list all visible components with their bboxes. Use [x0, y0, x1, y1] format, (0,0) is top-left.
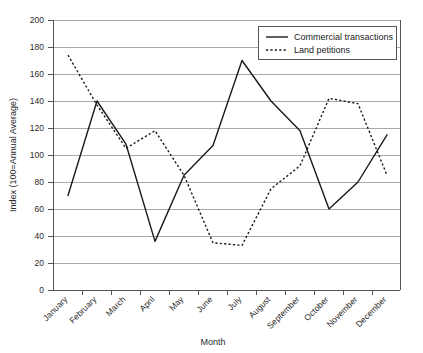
line-chart: 200 180 160 140 120 100 80 60 40 20 0 [0, 0, 423, 353]
ytick-label-60: 60 [35, 204, 45, 214]
x-axis-title: Month [200, 337, 225, 347]
x-tick-labels: January February March April May June Ju… [41, 294, 389, 331]
y-tick-labels: 200 180 160 140 120 100 80 60 40 20 0 [30, 15, 44, 295]
ytick-label-180: 180 [30, 42, 44, 52]
ytick-label-100: 100 [30, 150, 44, 160]
series-line-land-petitions [68, 55, 387, 245]
chart-canvas: 200 180 160 140 120 100 80 60 40 20 0 [0, 0, 423, 353]
series-line-commercial-transactions [68, 61, 387, 242]
ytick-label-160: 160 [30, 69, 44, 79]
legend-label-land-petitions: Land petitions [294, 45, 351, 55]
xtick-label-august: August [247, 294, 273, 320]
xtick-label-july: July [226, 294, 244, 312]
y-tick-marks [48, 20, 53, 290]
legend-label-commercial-transactions: Commercial transactions [294, 32, 394, 42]
series-group [68, 55, 387, 245]
y-axis-title: Index (100=Annual Average) [8, 98, 18, 212]
xtick-label-january: January [41, 294, 70, 323]
xtick-label-february: February [67, 294, 99, 326]
xtick-label-april: April [137, 294, 156, 313]
xtick-label-june: June [194, 294, 214, 314]
ytick-label-0: 0 [39, 285, 44, 295]
legend: Commercial transactions Land petitions [258, 26, 396, 59]
xtick-label-march: March [104, 294, 128, 318]
ytick-label-20: 20 [35, 258, 45, 268]
xtick-label-december: December [354, 294, 389, 329]
ytick-label-40: 40 [35, 231, 45, 241]
ytick-label-120: 120 [30, 123, 44, 133]
xtick-label-october: October [302, 294, 331, 323]
ytick-label-80: 80 [35, 177, 45, 187]
x-tick-marks [82, 290, 372, 295]
ytick-label-140: 140 [30, 96, 44, 106]
xtick-label-may: May [167, 294, 186, 313]
ytick-label-200: 200 [30, 15, 44, 25]
